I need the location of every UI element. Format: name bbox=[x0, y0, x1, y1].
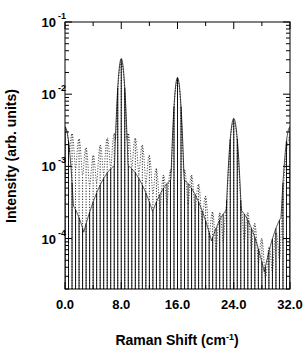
svg-text:-1: -1 bbox=[58, 11, 66, 21]
svg-text:-4: -4 bbox=[58, 228, 66, 238]
x-tick-label-0: 0.0 bbox=[56, 297, 74, 312]
figure-background bbox=[0, 0, 307, 354]
x-tick-label-1: 8.0 bbox=[112, 297, 130, 312]
x-tick-label-4: 32.0 bbox=[277, 297, 302, 312]
chart-canvas: 0.08.016.024.032.010-110-210-310-4 Raman… bbox=[0, 0, 307, 354]
x-axis-title-text: Raman Shift (cm-1) bbox=[115, 332, 238, 348]
svg-text:10: 10 bbox=[42, 15, 56, 30]
y-axis-title: Intensity (arb. units) bbox=[3, 89, 19, 223]
y-axis-title-text: Intensity (arb. units) bbox=[3, 89, 19, 223]
svg-text:10: 10 bbox=[42, 159, 56, 174]
x-tick-label-2: 16.0 bbox=[165, 297, 190, 312]
svg-text:10: 10 bbox=[42, 87, 56, 102]
svg-text:-3: -3 bbox=[58, 155, 66, 165]
svg-text:-2: -2 bbox=[58, 83, 66, 93]
raman-spectrum-figure: 0.08.016.024.032.010-110-210-310-4 Raman… bbox=[0, 0, 307, 354]
x-tick-label-3: 24.0 bbox=[221, 297, 246, 312]
x-axis-title: Raman Shift (cm-1) bbox=[115, 332, 238, 348]
svg-text:10: 10 bbox=[42, 232, 56, 247]
